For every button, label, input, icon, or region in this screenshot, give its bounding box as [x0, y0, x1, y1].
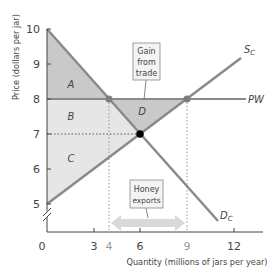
x-axis-title: Quantity (millions of jars per year)	[126, 257, 267, 267]
region-b-label: B	[68, 111, 75, 122]
point-equilibrium	[136, 130, 144, 138]
x-tick-label-9: 9	[184, 240, 191, 253]
region-d-label: D	[138, 106, 146, 117]
x-tick-label-6: 6	[137, 240, 144, 253]
x-tick-label-0: 0	[39, 240, 46, 253]
x-tick-label-3: 3	[91, 240, 98, 253]
x-tick-label-4: 4	[106, 240, 113, 253]
demand-curve-label: DC	[220, 210, 233, 223]
y-tick-label-7: 7	[33, 128, 40, 141]
y-tick-label-5: 5	[33, 198, 40, 211]
y-axis-title: Price (dollars per jar)	[11, 14, 21, 100]
y-tick-label-8: 8	[33, 93, 40, 106]
x-ticks	[94, 228, 234, 232]
point-q4-pw	[106, 96, 113, 103]
exports-callout-leader	[146, 208, 148, 218]
region-c-label: C	[68, 153, 75, 164]
gain-callout-line-2: from	[137, 58, 156, 67]
gain-callout-line-3: trade	[136, 69, 157, 78]
y-tick-label-9: 9	[33, 58, 40, 71]
gain-callout-line-1: Gain	[137, 47, 155, 56]
gain-callout-leader	[144, 80, 146, 100]
y-tick-label-6: 6	[33, 163, 40, 176]
exports-callout-line-2: exports	[132, 196, 160, 205]
supply-curve-label: SC	[244, 44, 255, 57]
pw-label: PW	[248, 94, 265, 105]
y-tick-label-10: 10	[26, 23, 40, 36]
x-tick-label-12: 12	[227, 240, 241, 253]
point-q9-pw	[184, 96, 191, 103]
region-a-label: A	[67, 79, 75, 90]
exports-callout-line-1: Honey	[134, 185, 160, 194]
gains-from-trade-chart: 10 9 8 7 6 5 0 3 4 6 9 12 Quantity (mill…	[0, 0, 276, 273]
